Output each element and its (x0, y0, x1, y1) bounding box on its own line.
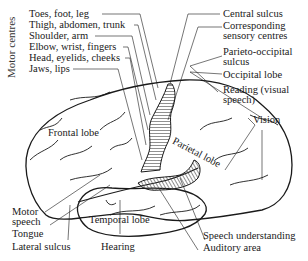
label-speech: speech (12, 216, 41, 227)
label-jaws-lips: Jaws, lips (29, 63, 70, 74)
label-elbow-wrist-fingers: Elbow, wrist, fingers (29, 41, 116, 52)
label-hearing: Hearing (101, 241, 135, 252)
motor-centres-heading: Motor centres (5, 17, 17, 78)
label-vision: Vision (253, 114, 280, 125)
label-sensory-centres: sensory centres (223, 30, 287, 41)
label-central-sulcus: Central sulcus (223, 8, 283, 19)
label-frontal-lobe: Frontal lobe (48, 127, 99, 138)
label-visual-speech: speech) (223, 94, 255, 105)
label-temporal-lobe: Temporal lobe (89, 214, 150, 225)
label-speech-understanding: Speech understanding (203, 230, 295, 241)
label-occipital-lobe: Occipital lobe (223, 69, 282, 80)
label-tongue: Tongue (12, 228, 43, 239)
label-sulcus: sulcus (223, 56, 249, 67)
label-auditory-area: Auditory area (203, 242, 261, 253)
label-thigh-abdomen-trunk: Thigh, abdomen, trunk (29, 19, 125, 30)
label-toes-foot-leg: Toes, foot, leg (29, 8, 89, 19)
label-lateral-sulcus: Lateral sulcus (12, 241, 71, 252)
label-head-eyelids-cheeks: Head, eyelids, cheeks (29, 52, 120, 63)
label-shoulder-arm: Shoulder, arm (29, 30, 88, 41)
